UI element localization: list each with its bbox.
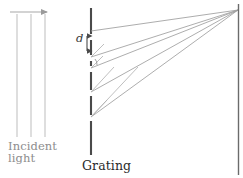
diffracted-ray-4 xyxy=(91,10,238,92)
incident-light-line2: light xyxy=(8,151,35,165)
wavefront-segment-3 xyxy=(91,67,114,92)
diffracted-ray-3 xyxy=(91,10,238,68)
grating-label: Grating xyxy=(82,159,131,173)
diffracted-rays-group xyxy=(91,10,238,117)
incident-light-label: Incidentlight xyxy=(8,140,57,165)
diffracted-ray-2 xyxy=(91,10,238,57)
diffracted-ray-1 xyxy=(91,10,238,31)
wavefront-segment-5 xyxy=(91,100,107,117)
diffracted-ray-5 xyxy=(91,10,238,117)
diffraction-grating-figure: Incidentlight Grating d xyxy=(0,0,243,178)
slit-spacing-label: d xyxy=(76,32,83,44)
incident-beam-group xyxy=(10,12,47,137)
